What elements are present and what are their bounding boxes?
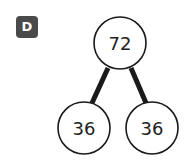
- node-root-value: 72: [109, 33, 132, 54]
- number-bond-diagram: 72 36 36: [0, 0, 185, 163]
- node-right-value: 36: [141, 118, 164, 139]
- branch-right: [131, 68, 146, 103]
- node-root: 72: [94, 17, 146, 69]
- node-right: 36: [126, 102, 178, 154]
- node-left: 36: [58, 102, 110, 154]
- branch-left: [92, 68, 108, 103]
- node-left-value: 36: [73, 118, 96, 139]
